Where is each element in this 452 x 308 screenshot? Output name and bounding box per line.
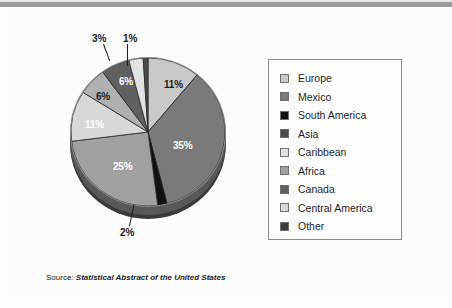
slice-label-mexico: 35% (173, 140, 192, 151)
callout-label-central-america: 3% (92, 33, 106, 44)
slice-label-europe: 11% (164, 79, 183, 90)
legend-swatch-icon (280, 74, 289, 83)
legend-box: EuropeMexicoSouth AmericaAsiaCaribbeanAf… (268, 59, 402, 240)
pie-chart: 11% 35% 25% 11% 6% 6% (68, 55, 232, 231)
legend-item[interactable]: Canada (280, 180, 395, 199)
pie-slices (70, 57, 226, 207)
legend-item[interactable]: Caribbean (280, 143, 395, 162)
pie-face (70, 57, 226, 207)
legend-swatch-icon (280, 185, 289, 194)
source-note: Source: Statistical Abstract of the Unit… (46, 273, 225, 282)
legend-item-label: Mexico (298, 92, 331, 103)
legend-item[interactable]: Asia (280, 125, 395, 144)
slice-label-africa: 6% (96, 91, 110, 102)
legend-swatch-icon (280, 203, 289, 212)
legend-list: EuropeMexicoSouth AmericaAsiaCaribbeanAf… (280, 69, 395, 236)
legend-swatch-icon (280, 166, 289, 175)
legend-item[interactable]: Africa (280, 162, 395, 181)
callout-label-south-america: 2% (120, 227, 134, 238)
slice-label-asia: 25% (113, 161, 132, 172)
legend-item[interactable]: Other (280, 217, 395, 236)
legend-swatch-icon (280, 148, 289, 157)
legend-item-label: Other (298, 221, 324, 232)
legend-item-label: Africa (298, 166, 325, 177)
top-decorative-bar (0, 2, 452, 7)
legend-item[interactable]: Central America (280, 199, 395, 218)
legend-item[interactable]: Europe (280, 69, 395, 88)
legend-item[interactable]: Mexico (280, 88, 395, 107)
legend-item-label: Europe (298, 73, 332, 84)
legend-item[interactable]: South America (280, 106, 395, 125)
callout-label-other: 1% (123, 33, 137, 44)
legend-item-label: Canada (298, 184, 335, 195)
legend-swatch-icon (280, 111, 289, 120)
legend-item-label: Central America (298, 203, 373, 214)
legend-swatch-icon (280, 92, 289, 101)
legend-item-label: Asia (298, 129, 318, 140)
legend-swatch-icon (280, 129, 289, 138)
chart-page: 11% 35% 25% 11% 6% 6% 3% 1% 2% EuropeMex… (0, 0, 452, 308)
callout-leader-other (127, 44, 128, 66)
legend-item-label: South America (298, 110, 366, 121)
source-title: Statistical Abstract of the United State… (76, 273, 226, 282)
legend-swatch-icon (280, 222, 289, 231)
slice-label-canada: 6% (119, 76, 133, 87)
source-prefix: Source: (46, 273, 74, 282)
slice-label-caribbean: 11% (85, 119, 104, 130)
legend-item-label: Caribbean (298, 147, 346, 158)
chart-canvas: 11% 35% 25% 11% 6% 6% 3% 1% 2% EuropeMex… (10, 8, 446, 298)
